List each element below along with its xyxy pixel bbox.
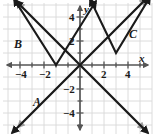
y-tick-label--4: −4 bbox=[63, 108, 75, 119]
x-tick-label--4: −4 bbox=[15, 69, 27, 80]
x-tick-label--2: −2 bbox=[39, 69, 51, 80]
x-tick-label-4: 4 bbox=[125, 69, 131, 80]
graph-label-B: B bbox=[14, 38, 22, 50]
coordinate-grid-figure: −4 −2 2 4 4 2 −2 −4 y x A B C bbox=[0, 0, 155, 137]
y-tick-label-4: 4 bbox=[69, 12, 75, 23]
graph-label-A: A bbox=[33, 96, 41, 108]
graph-label-C: C bbox=[129, 28, 137, 40]
x-tick-label-2: 2 bbox=[101, 69, 107, 80]
y-tick-label-2: 2 bbox=[69, 36, 75, 47]
y-tick-label--2: −2 bbox=[63, 84, 75, 95]
y-axis-label: y bbox=[84, 4, 89, 15]
x-axis-label: x bbox=[139, 53, 145, 64]
